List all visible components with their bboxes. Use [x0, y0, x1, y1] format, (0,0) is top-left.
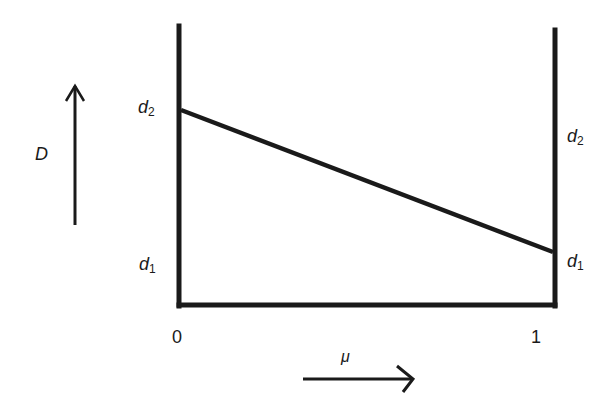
x-direction-arrow	[303, 366, 413, 392]
x-tick-1: 1	[531, 327, 541, 347]
diagram-canvas: D μ d2 d1 d2 d1 0 1	[0, 0, 615, 413]
right-upper-label: d2	[567, 126, 584, 148]
right-lower-label: d1	[567, 251, 584, 273]
x-tick-0: 0	[172, 327, 182, 347]
y-axis-label: D	[35, 144, 48, 164]
y-direction-arrow	[66, 86, 84, 225]
x-axis-label: μ	[340, 348, 350, 365]
trend-line	[181, 110, 553, 252]
left-upper-label: d2	[138, 97, 155, 119]
left-lower-label: d1	[139, 254, 156, 276]
